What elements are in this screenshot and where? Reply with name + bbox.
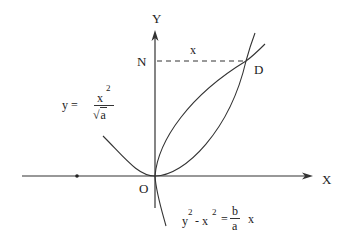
origin-label: O <box>139 182 148 195</box>
hyperbola-numerator: b <box>232 205 238 217</box>
hyperbola-denominator: a <box>232 220 237 232</box>
hyperbola-curve <box>155 44 265 226</box>
x-axis-label: X <box>322 173 331 186</box>
point-d-label: D <box>254 63 263 76</box>
hyperbola-rhs: x <box>248 213 254 225</box>
square-root-icon: √ <box>93 108 100 122</box>
x-axis-point <box>75 174 79 178</box>
parabola-denominator: √a <box>93 109 107 121</box>
y-axis-label: Y <box>152 12 161 25</box>
parabola-curve <box>103 33 255 176</box>
parabola-fraction-bar <box>94 105 114 106</box>
segment-x-label: x <box>190 44 196 56</box>
hyperbola-minus-x: - x2 <box>195 213 213 227</box>
parabola-lhs: y = <box>62 99 78 111</box>
hyperbola-y: y2 <box>182 213 193 227</box>
point-n-label: N <box>137 55 146 68</box>
diagram-figure: Y X O N D x y = x2 √a y2 - x2 = b a x <box>0 0 348 242</box>
hyperbola-equals: = <box>221 213 228 225</box>
parabola-numerator-exp: 2 <box>106 83 111 93</box>
parabola-numerator: x2 <box>97 90 108 104</box>
